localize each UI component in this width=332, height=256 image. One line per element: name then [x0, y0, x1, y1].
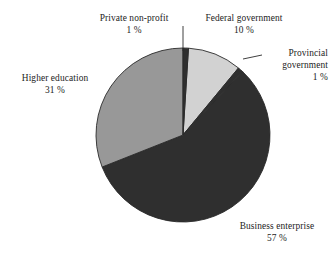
pie-label-private-non-profit: Private non-profit 1 % — [78, 12, 190, 36]
pie-label-federal-government-value: 10 % — [186, 24, 302, 36]
pie-label-private-non-profit-title: Private non-profit — [78, 12, 190, 24]
pie-chart-figure: Private non-profit 1 % Federal governmen… — [0, 0, 332, 256]
pie-chart-graphic — [0, 0, 332, 256]
pie-label-provincial-government: Provincial government 1 % — [244, 47, 328, 84]
pie-label-federal-government-title: Federal government — [186, 12, 302, 24]
pie-label-business-enterprise: Business enterprise 57 % — [224, 220, 330, 244]
pie-label-higher-education-title: Higher education — [2, 72, 108, 84]
pie-label-federal-government: Federal government 10 % — [186, 12, 302, 36]
pie-label-business-enterprise-value: 57 % — [224, 232, 330, 244]
pie-label-higher-education-value: 31 % — [2, 84, 108, 96]
pie-label-provincial-government-value: 1 % — [244, 71, 328, 83]
pie-label-provincial-government-title-line1: Provincial — [244, 47, 328, 59]
pie-label-provincial-government-title-line2: government — [244, 59, 328, 71]
pie-label-private-non-profit-value: 1 % — [78, 24, 190, 36]
pie-label-higher-education: Higher education 31 % — [2, 72, 108, 96]
pie-label-business-enterprise-title: Business enterprise — [224, 220, 330, 232]
